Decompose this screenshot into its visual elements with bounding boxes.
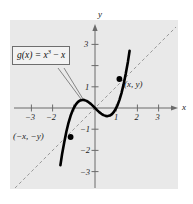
- y-axis-label: y: [98, 10, 102, 19]
- x-axis-arrow-icon: [171, 105, 178, 110]
- y-tick-label-minus-3: −3: [80, 168, 90, 177]
- figure-container: x y −3 −2 1 2 3 3 1 −1 −2 −3 (x, y) (−x,…: [0, 0, 193, 204]
- callout-leader-lines: [58, 68, 83, 99]
- y-tick-label-3: 3: [84, 40, 88, 49]
- function-equation-callout: g(x) = x3 − x: [12, 46, 70, 65]
- point-label-xy: (x, y): [124, 80, 142, 89]
- x-tick-label-1: 1: [114, 113, 118, 122]
- point-label-neg-x-neg-y: (−x, −y): [13, 132, 44, 141]
- y-tick-label-1: 1: [85, 83, 89, 92]
- point-marker-neg-x-neg-y: [68, 134, 74, 140]
- x-tick-label-minus-2: −2: [46, 113, 56, 122]
- graph-canvas: [0, 0, 193, 204]
- x-tick-label-minus-3: −3: [25, 113, 35, 122]
- x-tick-label-2: 2: [135, 113, 139, 122]
- callout-prefix: g(x) = x: [17, 50, 48, 60]
- point-marker-xy: [117, 76, 123, 82]
- callout-operator: −: [51, 50, 61, 60]
- x-axis-label: x: [182, 103, 186, 112]
- callout-term: x: [61, 50, 65, 60]
- y-tick-label-minus-1: −1: [80, 125, 90, 134]
- x-tick-label-3: 3: [156, 113, 160, 122]
- y-tick-label-minus-2: −2: [80, 146, 90, 155]
- y-axis-arrow-icon: [92, 24, 97, 31]
